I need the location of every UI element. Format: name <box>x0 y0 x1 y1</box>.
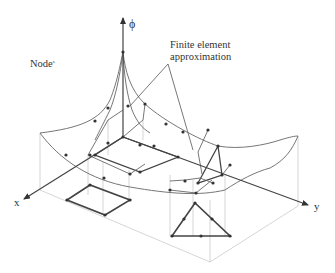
annotation-line-1: Finite element <box>170 39 230 50</box>
x-axis-label: x <box>14 196 20 208</box>
node-label: Nodes <box>30 58 55 69</box>
annotation-leaders <box>130 64 193 150</box>
y-axis-label: y <box>314 200 320 212</box>
x-axis <box>24 137 123 199</box>
elevated-elements <box>88 104 230 193</box>
axes <box>24 18 308 205</box>
approximated-surface <box>40 52 298 194</box>
phi-axis-label: ϕ <box>129 17 135 31</box>
annotation-line-2: approximation <box>170 51 232 62</box>
y-axis <box>123 137 308 205</box>
finite-element-diagram: ϕ x y Nodes Finite element approximation <box>0 0 335 273</box>
